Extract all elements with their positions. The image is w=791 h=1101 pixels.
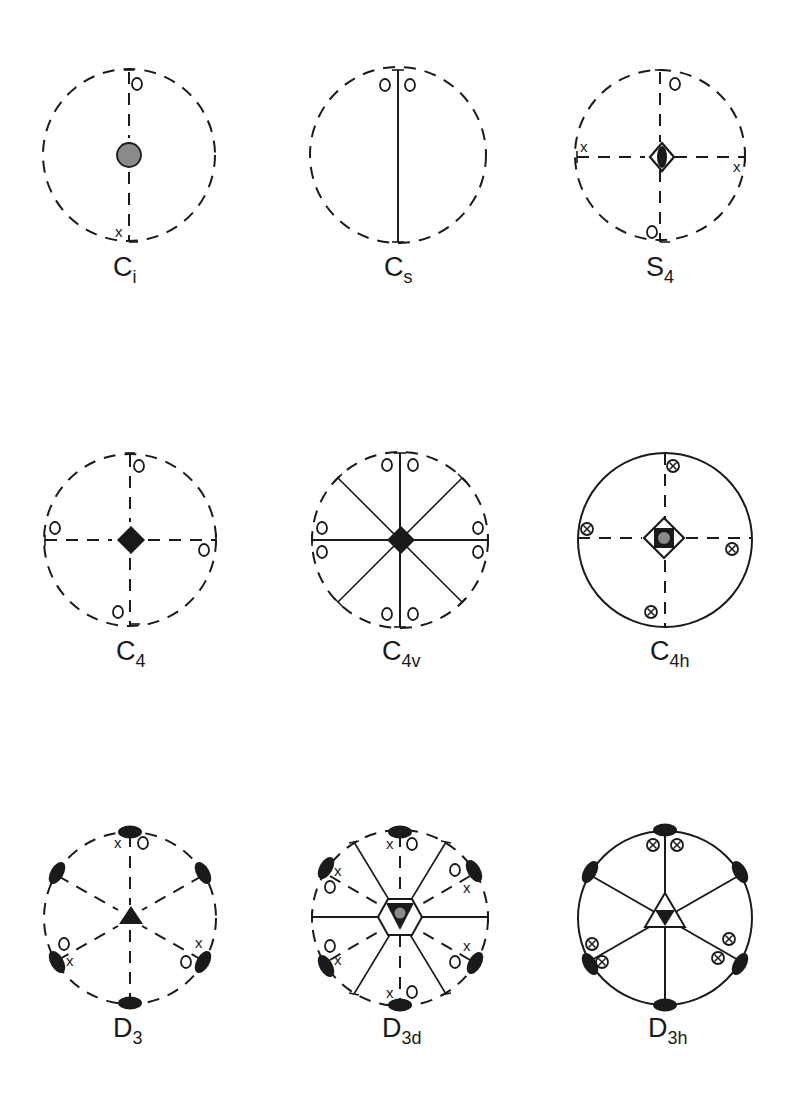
circled-cross-point xyxy=(647,839,659,851)
open-circle-point xyxy=(181,956,191,968)
cross-point: x xyxy=(334,951,342,968)
open-circle-point xyxy=(199,544,209,556)
cross-point: x xyxy=(386,984,394,1001)
cross-point: x xyxy=(580,138,588,155)
label-s4: S4 xyxy=(646,252,674,287)
label-c4v: C4v xyxy=(382,636,421,671)
panel-d3h xyxy=(578,824,752,1012)
two-fold-axis-lens-icon xyxy=(191,948,214,975)
cross-point: x xyxy=(66,952,74,969)
open-circle-point xyxy=(407,838,417,850)
two-fold-axis-lens-icon xyxy=(118,997,142,1010)
open-circle-point xyxy=(473,546,483,558)
open-circle-point xyxy=(450,956,460,968)
panel-c4v xyxy=(312,452,488,628)
panel-c4 xyxy=(44,453,216,626)
open-circle-point xyxy=(134,460,144,472)
label-c4h: C4h xyxy=(650,636,690,671)
open-circle-point xyxy=(317,522,327,534)
circled-cross-point xyxy=(726,543,738,555)
open-circle-point xyxy=(380,79,390,91)
panel-c4h xyxy=(578,453,752,627)
open-circle-point xyxy=(382,608,392,620)
open-circle-point xyxy=(382,459,392,471)
panel-s4: x x xyxy=(575,70,745,242)
circled-cross-point xyxy=(645,606,657,618)
circled-cross-point xyxy=(667,460,679,472)
circled-cross-point xyxy=(581,523,593,535)
open-circle-point xyxy=(317,546,327,558)
open-circle-point xyxy=(325,881,335,893)
panel-ci: x xyxy=(43,69,215,242)
open-circle-point xyxy=(450,864,460,876)
inversion-center-icon xyxy=(395,908,406,919)
open-circle-point xyxy=(50,522,60,534)
circled-cross-point xyxy=(586,938,598,950)
open-circle-point xyxy=(670,78,680,90)
open-circle-point xyxy=(408,459,418,471)
tick-mark xyxy=(441,841,451,843)
two-fold-axis-lens-icon xyxy=(118,826,142,839)
cross-point: x xyxy=(195,934,203,951)
label-c4: C4 xyxy=(116,636,146,671)
label-d3: D3 xyxy=(113,1013,143,1048)
panel-d3: x x x xyxy=(44,826,216,1010)
four-fold-axis-diamond-icon xyxy=(117,526,145,554)
open-circle-point xyxy=(473,522,483,534)
two-fold-axis-lens-icon xyxy=(653,999,677,1012)
cross-point: x xyxy=(115,223,123,240)
axis-line-dashed xyxy=(142,876,202,910)
label-d3h: D3h xyxy=(648,1013,688,1048)
cross-point: x xyxy=(386,835,394,852)
two-fold-axis-lens-icon xyxy=(45,859,68,886)
circled-cross-point xyxy=(723,933,735,945)
cross-point: x xyxy=(334,862,342,879)
label-cs: Cs xyxy=(384,252,413,287)
open-circle-point xyxy=(647,226,657,238)
cross-point: x xyxy=(463,879,471,896)
two-fold-axis-lens-icon xyxy=(653,824,677,837)
open-circle-point xyxy=(407,986,417,998)
tick-mark xyxy=(441,993,451,995)
inversion-center-icon xyxy=(658,532,670,544)
three-fold-axis-triangle-icon xyxy=(119,906,143,924)
label-d3d: D3d xyxy=(382,1013,422,1048)
two-fold-axis-lens-icon xyxy=(191,859,214,886)
label-ci: Ci xyxy=(113,252,137,287)
point-group-figure: .dash { fill: none; stroke: #1a1a1a; str… xyxy=(0,0,791,1101)
open-circle-point xyxy=(408,608,418,620)
open-circle-point xyxy=(113,606,123,618)
tick-mark xyxy=(349,841,359,843)
panel-cs xyxy=(310,67,486,243)
cross-point: x xyxy=(733,158,741,175)
axis-line-dashed xyxy=(58,876,118,910)
open-circle-point xyxy=(132,78,142,90)
circled-cross-point xyxy=(712,952,724,964)
circled-cross-point xyxy=(596,956,608,968)
tick-mark xyxy=(349,993,359,995)
open-circle-point xyxy=(138,837,148,849)
cross-point: x xyxy=(114,834,122,851)
axis-line-dashed xyxy=(142,926,202,960)
open-circle-point xyxy=(405,79,415,91)
circled-cross-point xyxy=(671,839,683,851)
panel-d3d: x x x x x x xyxy=(312,826,488,1012)
two-fold-axis-lens-icon xyxy=(657,146,667,168)
inversion-center-icon xyxy=(117,143,141,167)
open-circle-point xyxy=(59,938,69,950)
cross-point: x xyxy=(463,937,471,954)
